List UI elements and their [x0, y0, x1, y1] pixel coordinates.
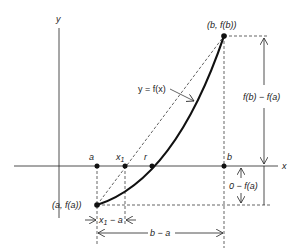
label-end: (b, f(b)) [207, 20, 237, 30]
label-start: (a, f(a)) [52, 200, 82, 210]
x-axis-label: x [281, 161, 287, 171]
rise-label: f(b) − f(a) [243, 92, 280, 102]
secant-line [97, 36, 224, 205]
point-x1 [123, 164, 128, 169]
secant-diagram: y x y = f(x) a x1 r b (a, f(a)) (b, f(b)… [0, 0, 304, 252]
curve-label: y = f(x) [138, 84, 166, 94]
label-x1: x1 [115, 152, 125, 163]
x1-minus-a-label: x1 − a [98, 215, 123, 226]
depth-label: 0 − f(a) [229, 181, 258, 191]
point-b [222, 164, 227, 169]
label-a: a [89, 152, 94, 162]
point-r [150, 164, 155, 169]
point-start [94, 202, 100, 208]
point-a [95, 164, 100, 169]
b-minus-a-label: b − a [150, 228, 170, 238]
label-r: r [144, 152, 148, 162]
curve-label-leader [170, 89, 194, 101]
point-end [221, 33, 227, 39]
y-axis-label: y [55, 14, 61, 24]
dashed-guides [97, 36, 272, 248]
label-b: b [227, 152, 232, 162]
